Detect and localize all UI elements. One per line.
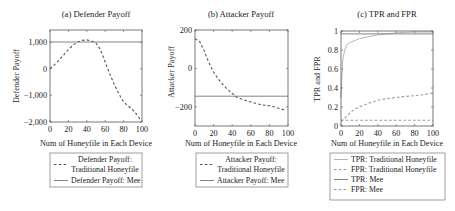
legend: Defender Payoff:Traditional HoneyfileDef… <box>50 153 142 187</box>
legend-label: Attacker Payoff: Mee <box>217 176 285 185</box>
legend-label: TPR: Mee <box>351 175 384 184</box>
y-tick-label: 0 <box>43 65 47 74</box>
y-tick-label: 0 <box>188 64 192 73</box>
legend: Attacker Payoff:Traditional HoneyfileAtt… <box>196 153 288 187</box>
y-tick-label: 200 <box>180 26 192 35</box>
chart-panel-tpr-fpr: (c) TPR and FPR TPR and FPR Num of Honey… <box>313 9 445 200</box>
x-tick-label: 0 <box>339 129 343 138</box>
plot-area: 02040608010010.80.60.40.20 <box>328 27 439 138</box>
y-tick-label: −1,000 <box>24 91 47 100</box>
plot-frame <box>341 31 433 126</box>
legend-label: Defender Payoff: Mee <box>71 176 141 185</box>
y-axis-label: Defender Payoff <box>12 49 21 103</box>
legend-label: FPR: Traditional Honeyfile <box>351 165 437 174</box>
x-axis-label: Num of Honeyfile in Each Device <box>331 139 443 148</box>
x-tick-label: 80 <box>120 125 128 134</box>
x-tick-label: 60 <box>392 129 400 138</box>
series-line <box>341 93 433 122</box>
x-tick-label: 20 <box>64 125 72 134</box>
chart-panel-attacker-payoff: (b) Attacker Payoff Attacker Payoff Num … <box>167 9 297 187</box>
y-tick-label: 0.6 <box>328 65 338 74</box>
plot-area: 0204060801001,0000−1,000−2,000 <box>24 30 148 134</box>
y-axis-label: Attacker Payoff <box>167 46 176 98</box>
y-tick-label: 0.4 <box>328 84 338 93</box>
legend-label: Attacker Payoff: <box>225 155 277 164</box>
x-tick-label: 20 <box>210 129 218 138</box>
chart-title: (b) Attacker Payoff <box>208 9 274 19</box>
x-tick-label: 80 <box>265 129 273 138</box>
x-tick-label: 100 <box>136 125 148 134</box>
x-tick-label: 60 <box>101 125 109 134</box>
x-axis-label: Num of Honeyfile in Each Device <box>40 139 152 148</box>
x-axis-label: Num of Honeyfile in Each Device <box>185 139 297 148</box>
y-tick-label: 1 <box>334 27 338 36</box>
series-line <box>50 40 140 119</box>
y-tick-label: 0.2 <box>328 103 338 112</box>
legend-label: Traditional Honeyfile <box>217 165 285 174</box>
plot-area: 0204060801002000−200 <box>175 26 294 138</box>
x-tick-label: 40 <box>374 129 382 138</box>
x-tick-label: 100 <box>427 129 439 138</box>
legend: TPR: Traditional HoneyfileFPR: Tradition… <box>330 153 445 200</box>
figure-canvas: (a) Defender Payoff Defender Payoff Num … <box>0 0 455 211</box>
x-tick-label: 60 <box>247 129 255 138</box>
series-line <box>341 32 433 98</box>
y-tick-label: 0 <box>334 122 338 131</box>
y-tick-label: 1,000 <box>29 38 47 47</box>
y-tick-label: −2,000 <box>24 118 47 127</box>
x-tick-label: 0 <box>193 129 197 138</box>
x-tick-label: 80 <box>411 129 419 138</box>
y-tick-label: −200 <box>175 103 192 112</box>
chart-title: (c) TPR and FPR <box>357 9 417 19</box>
x-tick-label: 40 <box>83 125 91 134</box>
x-tick-label: 100 <box>282 129 294 138</box>
x-tick-label: 0 <box>48 125 52 134</box>
y-axis-label: TPR and FPR <box>313 56 322 102</box>
legend-label: Defender Payoff: <box>78 155 132 164</box>
y-tick-label: 0.8 <box>328 46 338 55</box>
series-line <box>195 39 286 111</box>
legend-label: TPR: Traditional Honeyfile <box>351 155 437 164</box>
plot-frame <box>195 30 288 126</box>
chart-title: (a) Defender Payoff <box>62 9 131 19</box>
legend-label: FPR: Mee <box>351 185 383 194</box>
legend-label: Traditional Honeyfile <box>71 165 139 174</box>
chart-panel-defender-payoff: (a) Defender Payoff Defender Payoff Num … <box>12 9 152 187</box>
x-tick-label: 20 <box>355 129 363 138</box>
x-tick-label: 40 <box>228 129 236 138</box>
